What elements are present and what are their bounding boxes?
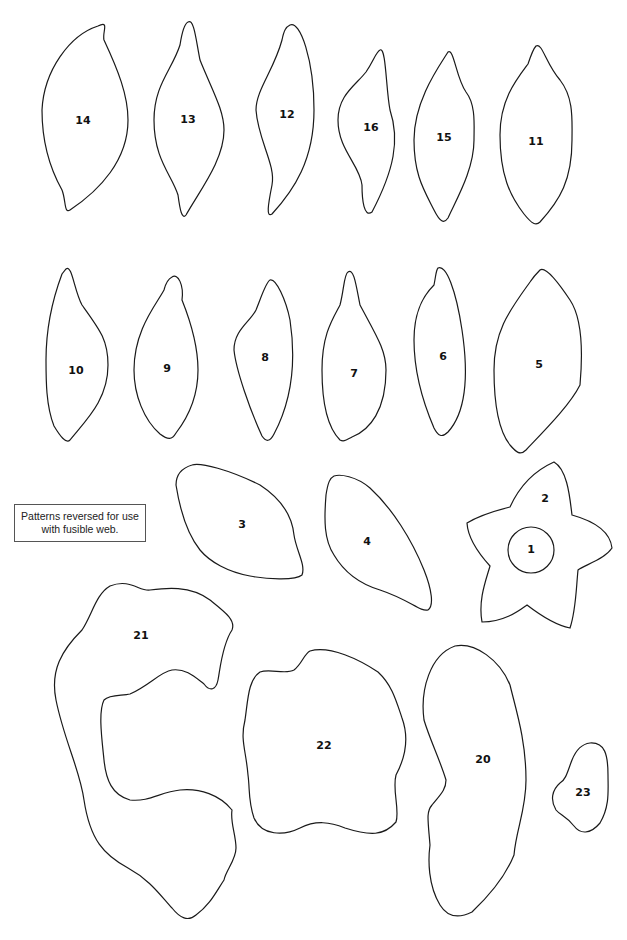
pattern-piece-15: 15	[414, 52, 474, 222]
pattern-piece-13: 13	[154, 22, 224, 217]
note-line-2: with fusible web.	[41, 523, 118, 536]
piece-label: 11	[528, 135, 543, 148]
piece-label: 1	[527, 543, 535, 556]
piece-label: 8	[261, 351, 269, 364]
piece-label: 22	[316, 739, 331, 752]
pattern-piece-4: 4	[325, 475, 432, 610]
pattern-piece-8: 8	[234, 280, 293, 440]
pattern-piece-5: 5	[494, 269, 582, 452]
pattern-piece-9: 9	[134, 276, 198, 438]
pattern-piece-11: 11	[500, 46, 572, 224]
piece-label: 23	[575, 786, 590, 799]
piece-label: 20	[475, 753, 491, 766]
pattern-piece-21: 21	[54, 584, 236, 919]
piece-label: 14	[75, 114, 91, 127]
pattern-piece-14: 14	[42, 24, 128, 210]
pattern-piece-3: 3	[176, 464, 303, 579]
pattern-piece-1: 1	[508, 527, 554, 573]
pattern-piece-10: 10	[46, 268, 108, 441]
pattern-sheet: 14 13 12 16 15 11 10 9 8 7 6 5	[0, 0, 627, 940]
piece-label: 7	[350, 367, 358, 380]
piece-label: 10	[68, 364, 84, 377]
piece-label: 6	[439, 350, 447, 363]
piece-label: 12	[279, 108, 294, 121]
pattern-piece-16: 16	[338, 50, 395, 213]
pattern-piece-6: 6	[414, 268, 465, 436]
piece-label: 2	[541, 492, 549, 505]
note-line-1: Patterns reversed for use	[21, 510, 139, 523]
pattern-note-box: Patterns reversed for use with fusible w…	[14, 504, 146, 542]
pattern-piece-23: 23	[553, 743, 609, 832]
pattern-piece-22: 22	[243, 650, 406, 834]
piece-label: 9	[163, 362, 171, 375]
piece-label: 5	[535, 358, 543, 371]
pattern-piece-7: 7	[322, 271, 386, 440]
pattern-piece-20: 20	[423, 645, 526, 915]
piece-label: 3	[238, 518, 246, 531]
piece-label: 13	[180, 113, 195, 126]
pattern-piece-12: 12	[256, 25, 314, 215]
piece-label: 15	[436, 131, 451, 144]
piece-label: 16	[363, 121, 379, 134]
piece-label: 21	[133, 629, 148, 642]
piece-label: 4	[363, 535, 371, 548]
